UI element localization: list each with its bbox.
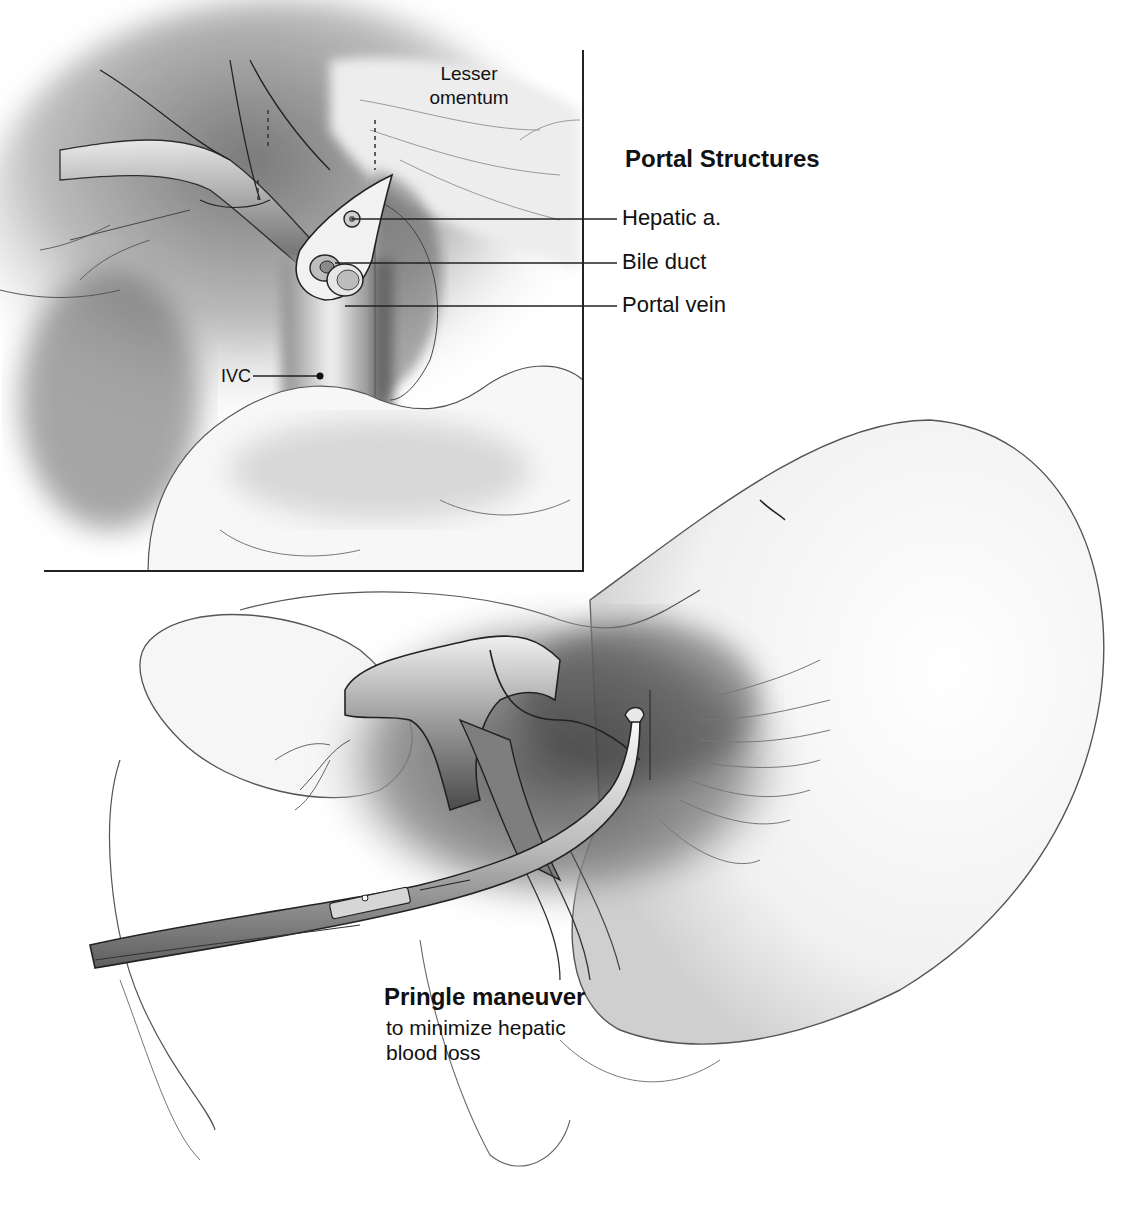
inset-title: Portal Structures xyxy=(625,145,820,173)
label-hepatic-artery: Hepatic a. xyxy=(622,205,721,231)
main-caption: to minimize hepatic blood loss xyxy=(386,1015,566,1065)
label-bile-duct: Bile duct xyxy=(622,249,706,275)
label-lesser-omentum-line2: omentum xyxy=(416,86,522,110)
main-caption-line2: blood loss xyxy=(386,1040,566,1065)
label-lesser-omentum: Lesser omentum xyxy=(416,62,522,110)
label-portal-vein: Portal vein xyxy=(622,292,726,318)
ivc-pointer-dot xyxy=(317,373,324,380)
label-ivc: IVC xyxy=(221,366,251,387)
main-caption-line1: to minimize hepatic xyxy=(386,1015,566,1040)
main-title: Pringle maneuver xyxy=(384,983,585,1011)
surgical-illustration xyxy=(0,0,1146,1206)
label-lesser-omentum-line1: Lesser xyxy=(416,62,522,86)
